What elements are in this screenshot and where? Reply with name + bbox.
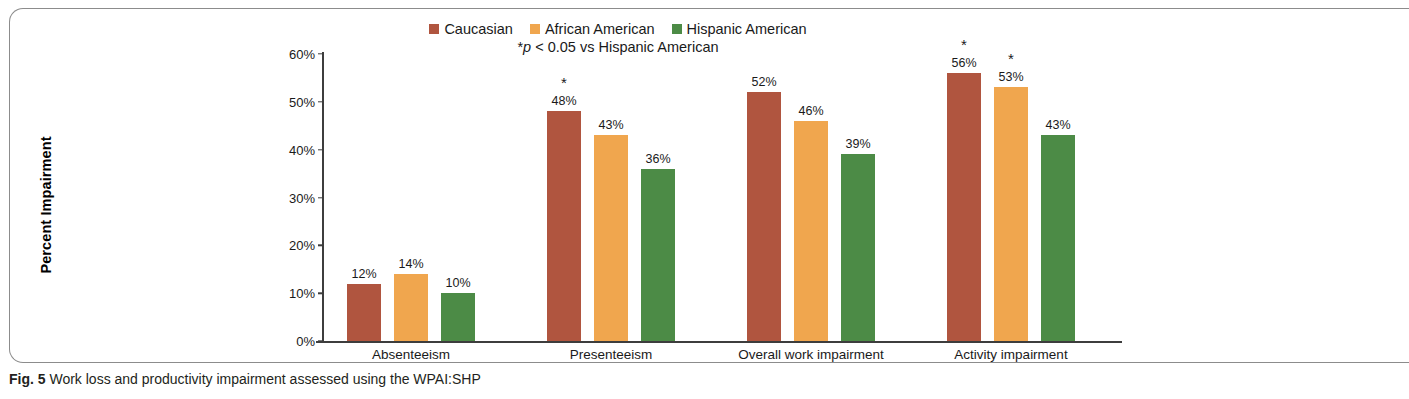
legend-item-hispanic-american: Hispanic American bbox=[672, 21, 807, 37]
bar[interactable] bbox=[347, 284, 381, 341]
bar-item[interactable]: 52% bbox=[747, 54, 781, 341]
figure-caption: Fig. 5 Work loss and productivity impair… bbox=[9, 371, 481, 387]
bar-value-label: 52% bbox=[751, 75, 776, 89]
bar-item[interactable]: 12% bbox=[347, 54, 381, 341]
bar-value-label: 53% bbox=[998, 70, 1023, 84]
x-axis-category-label: Absenteeism bbox=[372, 347, 450, 362]
legend-item-african-american: African American bbox=[530, 21, 655, 37]
bar-group: 56%*53%*43%Activity impairment bbox=[947, 54, 1075, 341]
bar-group: 52%46%39%Overall work impairment bbox=[747, 54, 875, 341]
bar-value-label: 12% bbox=[351, 267, 376, 281]
bar-significance-marker: * bbox=[961, 37, 967, 52]
bar-value-label: 48% bbox=[551, 94, 576, 108]
legend-swatch-african-american bbox=[530, 24, 540, 34]
bar[interactable] bbox=[994, 87, 1028, 341]
bar[interactable] bbox=[641, 169, 675, 341]
bar-groups: 12%14%10%Absenteeism48%*43%36%Presenteei… bbox=[322, 54, 1132, 341]
bar-value-label: 14% bbox=[398, 257, 423, 271]
legend-label-caucasian: Caucasian bbox=[444, 21, 513, 37]
bar-item[interactable]: 53%* bbox=[994, 54, 1028, 341]
x-axis-category-label: Activity impairment bbox=[954, 347, 1067, 362]
bar[interactable] bbox=[1041, 135, 1075, 341]
bar-item[interactable]: 56%* bbox=[947, 54, 981, 341]
bar-item[interactable]: 46% bbox=[794, 54, 828, 341]
bar-item[interactable]: 48%* bbox=[547, 54, 581, 341]
significance-rest: < 0.05 vs Hispanic American bbox=[531, 39, 718, 55]
bar-significance-marker: * bbox=[1008, 51, 1014, 66]
bar-value-label: 10% bbox=[445, 276, 470, 290]
bar-group: 48%*43%36%Presenteeism bbox=[547, 54, 675, 341]
plot-area: 0%10%20%30%40%50%60% 12%14%10%Absenteeis… bbox=[322, 54, 1132, 341]
bar[interactable] bbox=[747, 92, 781, 341]
chart-legend: Caucasian African American Hispanic Amer… bbox=[0, 21, 1236, 37]
bar[interactable] bbox=[441, 293, 475, 341]
bar-value-label: 46% bbox=[798, 104, 823, 118]
significance-p: p bbox=[523, 39, 531, 55]
legend-swatch-hispanic-american bbox=[672, 24, 682, 34]
bar-item[interactable]: 43% bbox=[1041, 54, 1075, 341]
significance-note: *p < 0.05 vs Hispanic American bbox=[0, 39, 1236, 55]
legend-label-hispanic-american: Hispanic American bbox=[687, 21, 807, 37]
bar-value-label: 39% bbox=[845, 137, 870, 151]
bar-item[interactable]: 10% bbox=[441, 54, 475, 341]
figure-caption-number: Fig. 5 bbox=[9, 371, 46, 387]
bar-item[interactable]: 39% bbox=[841, 54, 875, 341]
bar[interactable] bbox=[394, 274, 428, 341]
x-axis-category-label: Overall work impairment bbox=[738, 347, 884, 362]
legend-item-caucasian: Caucasian bbox=[429, 21, 513, 37]
x-axis-category-label: Presenteeism bbox=[570, 347, 653, 362]
bar-item[interactable]: 36% bbox=[641, 54, 675, 341]
legend-swatch-caucasian bbox=[429, 24, 439, 34]
bar[interactable] bbox=[547, 111, 581, 341]
bar[interactable] bbox=[841, 154, 875, 341]
bar-value-label: 43% bbox=[1045, 118, 1070, 132]
bar-group: 12%14%10%Absenteeism bbox=[347, 54, 475, 341]
x-axis-line bbox=[316, 341, 1122, 343]
bar-item[interactable]: 14% bbox=[394, 54, 428, 341]
figure-caption-text: Work loss and productivity impairment as… bbox=[46, 371, 481, 387]
bar-item[interactable]: 43% bbox=[594, 54, 628, 341]
bar-significance-marker: * bbox=[561, 75, 567, 90]
bar[interactable] bbox=[794, 121, 828, 341]
bar-value-label: 36% bbox=[645, 152, 670, 166]
y-axis-title: Percent Impairment bbox=[38, 90, 54, 320]
bar-value-label: 56% bbox=[951, 56, 976, 70]
bar[interactable] bbox=[947, 73, 981, 341]
legend-label-african-american: African American bbox=[545, 21, 655, 37]
bar[interactable] bbox=[594, 135, 628, 341]
bar-value-label: 43% bbox=[598, 118, 623, 132]
